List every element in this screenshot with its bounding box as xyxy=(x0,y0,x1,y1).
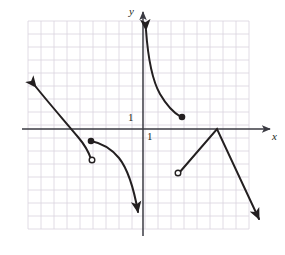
y-axis-tick-label: 1 xyxy=(128,112,134,123)
coordinate-plot xyxy=(0,0,285,255)
closed-point-middle xyxy=(88,138,95,145)
x-axis-label: x xyxy=(272,131,277,142)
grid xyxy=(28,21,249,229)
curve-upper-right-branch xyxy=(146,30,181,117)
curve-right-vee-branch xyxy=(179,129,259,219)
graph-figure: y x 1 1 xyxy=(0,0,285,255)
x-axis-tick-label: 1 xyxy=(147,131,153,142)
open-point-right xyxy=(175,170,181,176)
curve-left-branch xyxy=(36,87,91,159)
curve-middle-branch xyxy=(91,141,138,212)
y-axis-label: y xyxy=(129,6,134,17)
closed-point-upper-right xyxy=(179,114,186,121)
open-point-left xyxy=(89,157,95,163)
